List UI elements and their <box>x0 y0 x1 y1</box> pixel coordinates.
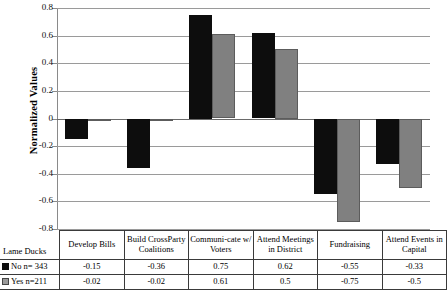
bar-group <box>119 8 181 229</box>
table-cell-value: -0.5 <box>382 274 447 289</box>
data-table: Lame Ducks Develop BillsBuild CrossParty… <box>0 230 447 290</box>
table-cell-value: -0.02 <box>124 274 189 289</box>
bar-group <box>181 8 243 229</box>
table-cell-value: 0.5 <box>253 274 318 289</box>
bar-group <box>57 8 119 229</box>
legend-swatch-icon <box>2 278 9 285</box>
table-cell-value: -0.02 <box>60 274 125 289</box>
y-tick-label: -0.2 <box>19 140 53 150</box>
table-cell-value: -0.33 <box>382 259 447 274</box>
bar-group <box>368 8 430 229</box>
plot-area <box>57 8 430 229</box>
legend-label: No n= 343 <box>11 261 47 271</box>
y-tick-label: 0.4 <box>19 57 53 67</box>
bar <box>65 119 88 140</box>
y-tick-label: -0.6 <box>19 195 53 205</box>
y-tick-label: 0.6 <box>19 30 53 40</box>
table-header-row: Lame Ducks Develop BillsBuild CrossParty… <box>0 231 447 260</box>
bar <box>127 119 150 169</box>
table-column-header: Fundraising <box>318 231 383 260</box>
table-body: No n= 343-0.15-0.360.750.62-0.55-0.33Yes… <box>0 259 447 289</box>
table-column-header: Build CrossParty Coalitions <box>124 231 189 260</box>
y-tick-label: 0.2 <box>19 85 53 95</box>
table-column-header: Develop Bills <box>60 231 125 260</box>
table-column-header: Attend Meetings in District <box>253 231 318 260</box>
data-table-container: Lame Ducks Develop BillsBuild CrossParty… <box>0 230 437 295</box>
legend-label: Yes n=211 <box>11 276 47 286</box>
bar-group <box>244 8 306 229</box>
bar <box>252 33 275 119</box>
bar-group <box>306 8 368 229</box>
table-cell-value: 0.75 <box>189 259 254 274</box>
table-cell-value: -0.36 <box>124 259 189 274</box>
table-cell-value: -0.75 <box>318 274 383 289</box>
table-column-header: Attend Events in Capital <box>382 231 447 260</box>
bar <box>376 119 399 165</box>
bar <box>337 119 360 223</box>
bar <box>88 119 111 122</box>
legend-swatch-icon <box>2 263 9 270</box>
table-cell-value: -0.15 <box>60 259 125 274</box>
table-column-header: Communi-cate w/ Voters <box>189 231 254 260</box>
bar <box>399 119 422 188</box>
bar <box>189 15 212 119</box>
y-axis-title: Normalized Values <box>28 31 39 191</box>
table-row: Yes n=211-0.02-0.020.610.5-0.75-0.5 <box>0 274 447 289</box>
bar <box>314 119 337 195</box>
y-tick-label: 0 <box>19 113 53 123</box>
legend-title-cell: Lame Ducks <box>0 231 60 260</box>
y-tick-label: 0.8 <box>19 2 53 12</box>
table-cell-value: -0.55 <box>318 259 383 274</box>
y-tick-label: -0.4 <box>19 168 53 178</box>
legend-entry[interactable]: No n= 343 <box>0 259 60 274</box>
table-cell-value: 0.62 <box>253 259 318 274</box>
table-cell-value: 0.61 <box>189 274 254 289</box>
bar <box>150 119 173 122</box>
legend-entry[interactable]: Yes n=211 <box>0 274 60 289</box>
table-row: No n= 343-0.15-0.360.750.62-0.55-0.33 <box>0 259 447 274</box>
bar <box>275 49 298 118</box>
bar <box>212 34 235 118</box>
